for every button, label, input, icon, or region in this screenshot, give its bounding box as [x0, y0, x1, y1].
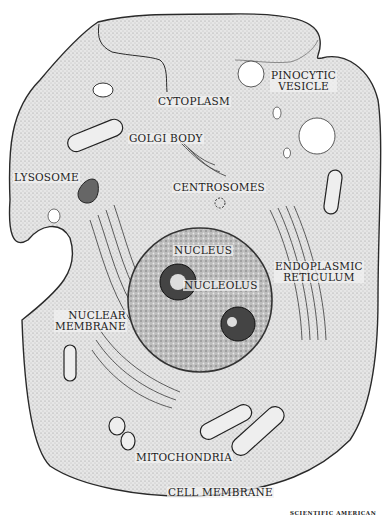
- label-nuclear-membrane: NUCLEAR MEMBRANE: [54, 310, 127, 332]
- label-centrosomes: CENTROSOMES: [172, 182, 266, 193]
- cell-diagram: PINOCYTIC VESICLE CYTOPLASM GOLGI BODY L…: [0, 0, 382, 518]
- label-pinocytic-vesicle: PINOCYTIC VESICLE: [270, 70, 337, 92]
- label-golgi-body: GOLGI BODY: [128, 133, 204, 144]
- label-nucleus: NUCLEUS: [173, 245, 233, 256]
- label-mitochondria: MITOCHONDRIA: [135, 452, 233, 463]
- label-lysosome: LYSOSOME: [13, 172, 80, 183]
- label-cell-membrane: CELL MEMBRANE: [167, 487, 274, 498]
- label-endoplasmic-reticulum: ENDOPLASMIC RETICULUM: [274, 261, 364, 283]
- label-nucleolus: NUCLEOLUS: [183, 280, 259, 291]
- label-cytoplasm: CYTOPLASM: [157, 96, 231, 107]
- credit-line: SCIENTIFIC AMERICAN: [290, 510, 376, 516]
- pinocytic-vesicle: [238, 61, 264, 87]
